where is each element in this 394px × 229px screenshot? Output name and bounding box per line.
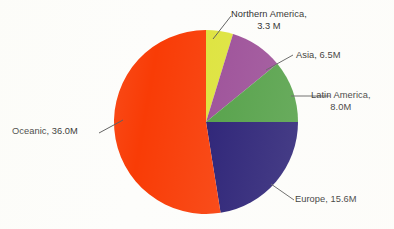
slice-label-asia-line1: Asia, 6.5M — [296, 50, 340, 60]
slice-label-northern-america-line2: 3.3 M — [231, 21, 307, 33]
slice-label-asia: Asia, 6.5M — [296, 50, 340, 62]
pie-slice-europe[interactable] — [206, 122, 298, 213]
pie-chart-page: Northern America, 3.3 M Asia, 6.5M Latin… — [0, 0, 394, 229]
slice-label-oceanic-line1: Oceanic, 36.0M — [12, 126, 78, 136]
slice-label-northern-america: Northern America, 3.3 M — [231, 9, 307, 32]
slice-label-northern-america-line1: Northern America, — [231, 9, 307, 19]
slice-label-latin-america-line1: Latin America, — [311, 90, 371, 100]
pie-slices-group — [114, 30, 298, 214]
slice-label-latin-america-line2: 8.0M — [311, 102, 371, 114]
pie-slice-oceanic[interactable] — [114, 30, 221, 214]
slice-label-latin-america: Latin America, 8.0M — [311, 90, 371, 113]
leader-line-europe — [271, 184, 294, 200]
slice-label-europe: Europe, 15.6M — [295, 194, 357, 206]
slice-label-europe-line1: Europe, 15.6M — [295, 194, 357, 204]
slice-label-oceanic: Oceanic, 36.0M — [12, 126, 78, 138]
